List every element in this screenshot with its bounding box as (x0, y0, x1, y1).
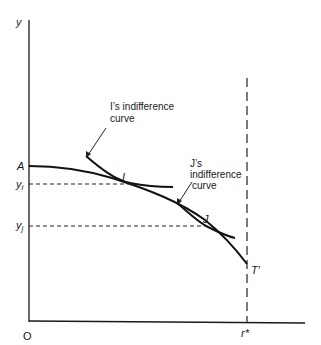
indifference-diagram: y O r* A I J T′ yi yj I’s indifference c… (0, 0, 321, 345)
y-axis-label: y (15, 16, 23, 28)
yj-tick-label: yj (15, 219, 24, 233)
j-curve-annotation-line1: J’s (190, 158, 202, 169)
j-curve-annotation-line3: curve (192, 180, 217, 191)
yi-subscript: i (22, 183, 24, 192)
j-curve-pointer (179, 182, 192, 202)
i-curve-annotation-line1: I’s indifference (110, 101, 175, 112)
point-a-label: A (16, 160, 24, 172)
yj-subscript: j (21, 224, 24, 233)
point-t-prime-label: T′ (251, 264, 261, 276)
point-j-label: J (202, 213, 209, 225)
x-axis (29, 321, 305, 323)
origin-label: O (23, 330, 32, 342)
yi-tick-label: yi (15, 178, 24, 192)
j-curve-annotation-line2: indifference (190, 169, 242, 180)
i-indifference-curve (86, 156, 173, 187)
r-star-label: r* (241, 327, 250, 339)
i-curve-pointer (88, 128, 106, 155)
point-i-label: I (122, 171, 125, 183)
i-curve-annotation-line2: curve (110, 113, 135, 124)
